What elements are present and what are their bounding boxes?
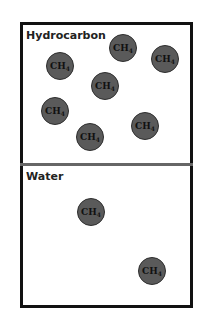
methane-molecule: CH4 — [77, 198, 105, 226]
molecule-formula: CH4 — [80, 132, 100, 143]
methane-molecule: CH4 — [91, 72, 119, 100]
methane-molecule: CH4 — [46, 52, 74, 80]
methane-molecule: CH4 — [138, 257, 166, 285]
methane-molecule: CH4 — [76, 123, 104, 151]
molecule-formula: CH4 — [135, 121, 155, 132]
methane-molecule: CH4 — [41, 97, 69, 125]
methane-molecule: CH4 — [109, 34, 137, 62]
molecule-formula: CH4 — [50, 61, 70, 72]
molecule-formula: CH4 — [155, 54, 175, 65]
methane-molecule: CH4 — [151, 45, 179, 73]
hydrocarbon-label: Hydrocarbon — [26, 29, 106, 42]
methane-molecule: CH4 — [131, 112, 159, 140]
phase-divider — [20, 163, 193, 166]
molecule-formula: CH4 — [45, 106, 65, 117]
molecule-formula: CH4 — [81, 207, 101, 218]
molecule-formula: CH4 — [142, 266, 162, 277]
molecule-formula: CH4 — [95, 81, 115, 92]
molecule-formula: CH4 — [113, 43, 133, 54]
water-label: Water — [26, 170, 63, 183]
